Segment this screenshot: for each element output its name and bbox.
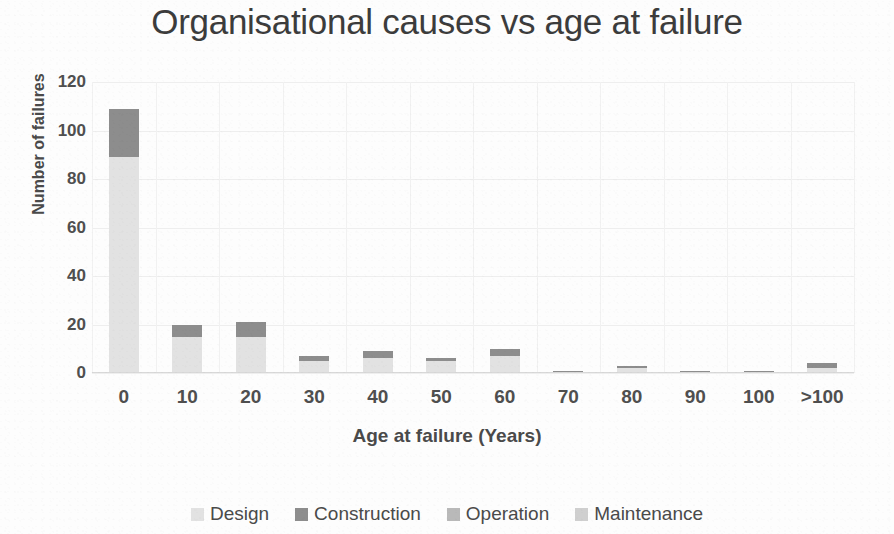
x-tick-label: 40 [367,386,388,408]
legend-item[interactable]: Maintenance [575,503,703,525]
bar-column[interactable] [92,109,156,373]
x-tick-label: 80 [621,386,642,408]
y-tick-label: 100 [40,122,86,139]
bar-column[interactable] [346,351,410,373]
vertical-gridline [473,82,474,373]
x-axis-title: Age at failure (Years) [0,425,894,447]
vertical-gridline [600,82,601,373]
legend-swatch-icon [575,508,588,521]
chart-figure: Organisational causes vs age at failure … [0,0,894,534]
x-axis-line [92,372,854,373]
x-axis-tick-labels: 0102030405060708090100>100 [92,386,854,414]
y-tick-label: 0 [40,364,86,381]
legend-item[interactable]: Design [191,503,269,525]
legend-swatch-icon [447,508,460,521]
legend-item[interactable]: Operation [447,503,549,525]
bar-column[interactable] [156,325,220,374]
y-tick-label: 80 [40,170,86,187]
x-tick-label: 20 [240,386,261,408]
stacked-bar[interactable] [236,322,266,373]
legend-label: Maintenance [594,503,703,525]
legend-label: Design [210,503,269,525]
stacked-bar[interactable] [363,351,393,373]
x-tick-label: 70 [558,386,579,408]
y-tick-label: 40 [40,267,86,284]
horizontal-gridline [92,373,854,374]
x-tick-label: 50 [431,386,452,408]
vertical-gridline [346,82,347,373]
x-tick-label: 30 [304,386,325,408]
vertical-gridline [537,82,538,373]
x-tick-label: >100 [801,386,844,408]
bar-segment[interactable] [236,322,266,337]
y-tick-label: 60 [40,219,86,236]
vertical-gridline [854,82,855,373]
stacked-bar[interactable] [426,358,456,373]
vertical-gridline [664,82,665,373]
bar-segment[interactable] [109,157,139,373]
bar-column[interactable] [473,349,537,373]
y-tick-label: 20 [40,316,86,333]
x-tick-label: 10 [177,386,198,408]
stacked-bar[interactable] [490,349,520,373]
bar-column[interactable] [283,356,347,373]
bar-segment[interactable] [363,358,393,373]
plot-area [92,82,854,373]
x-tick-label: 100 [743,386,775,408]
bar-column[interactable] [219,322,283,373]
legend-swatch-icon [191,508,204,521]
vertical-gridline [410,82,411,373]
chart-legend: DesignConstructionOperationMaintenance [0,503,894,525]
bar-segment[interactable] [490,356,520,373]
bar-column[interactable] [410,358,474,373]
stacked-bar[interactable] [299,356,329,373]
x-tick-label: 90 [685,386,706,408]
chart-title: Organisational causes vs age at failure [0,2,894,42]
vertical-gridline [283,82,284,373]
legend-label: Construction [314,503,421,525]
y-tick-label: 120 [40,73,86,90]
vertical-gridline [727,82,728,373]
bar-segment[interactable] [172,325,202,337]
legend-swatch-icon [295,508,308,521]
x-tick-label: 0 [118,386,129,408]
bar-segment[interactable] [363,351,393,358]
bar-segment[interactable] [236,337,266,373]
stacked-bar[interactable] [109,109,139,373]
legend-label: Operation [466,503,549,525]
bar-segment[interactable] [109,109,139,158]
x-tick-label: 60 [494,386,515,408]
vertical-gridline [791,82,792,373]
legend-item[interactable]: Construction [295,503,421,525]
bar-segment[interactable] [490,349,520,356]
bar-segment[interactable] [172,337,202,373]
stacked-bar[interactable] [172,325,202,374]
y-axis-tick-labels: 020406080100120 [34,0,86,534]
